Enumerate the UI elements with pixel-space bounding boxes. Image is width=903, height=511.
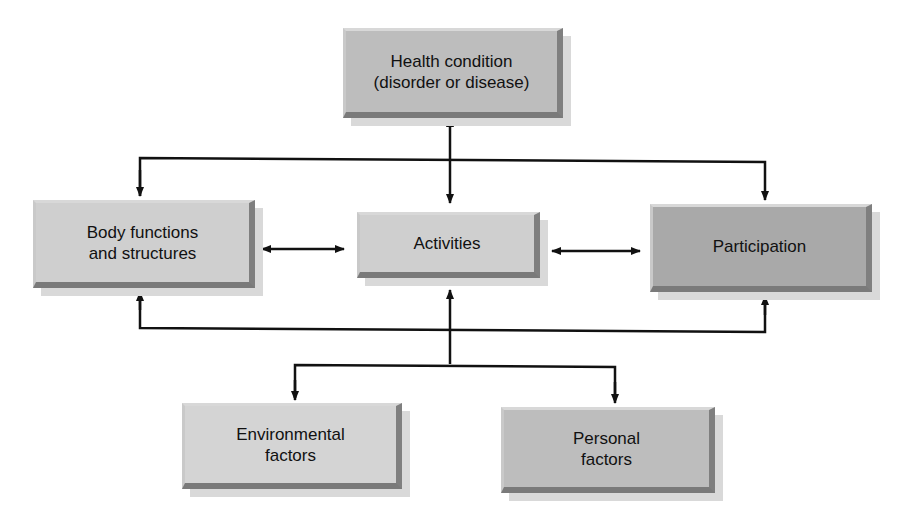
environmental-factors-box: Environmental factors bbox=[182, 403, 402, 489]
participation-label: Participation bbox=[713, 236, 807, 257]
activities-label: Activities bbox=[413, 233, 480, 254]
environmental-factors-label: Environmental factors bbox=[236, 424, 345, 466]
icf-diagram: Health condition (disorder or disease) B… bbox=[0, 0, 903, 511]
personal-factors-label: Personal factors bbox=[573, 428, 640, 470]
participation-box: Participation bbox=[650, 204, 872, 292]
body-functions-label: Body functions and structures bbox=[87, 222, 199, 264]
personal-factors-box: Personal factors bbox=[501, 407, 715, 493]
health-condition-box: Health condition (disorder or disease) bbox=[343, 28, 563, 118]
activities-box: Activities bbox=[357, 212, 540, 278]
health-condition-label: Health condition (disorder or disease) bbox=[374, 51, 530, 93]
body-functions-box: Body functions and structures bbox=[33, 200, 255, 288]
